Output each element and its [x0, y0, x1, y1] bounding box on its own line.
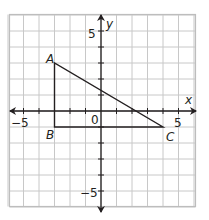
- x-axis-label: x: [184, 93, 193, 107]
- origin-label: 0: [91, 113, 99, 127]
- vertex-label-b: B: [46, 128, 54, 142]
- tick-label-y-neg5: −5: [80, 186, 98, 200]
- y-axis-label: y: [105, 17, 114, 31]
- vertex-label-a: A: [45, 52, 54, 66]
- coordinate-plane: x y −5 5 5 −5 0 A B C: [0, 0, 209, 220]
- tick-label-x-pos5: 5: [174, 116, 182, 130]
- tick-label-x-neg5: −5: [11, 116, 29, 130]
- tick-label-y-pos5: 5: [88, 27, 96, 41]
- vertex-label-c: C: [166, 130, 175, 144]
